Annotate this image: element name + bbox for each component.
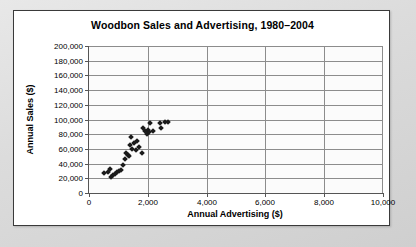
y-axis-tick bbox=[85, 61, 89, 62]
gridline-vertical bbox=[324, 46, 325, 193]
x-axis-tick-label: 10,000 bbox=[371, 198, 395, 207]
x-axis-tick bbox=[148, 193, 149, 197]
x-axis-tick bbox=[89, 193, 90, 197]
gridline-horizontal bbox=[89, 105, 383, 106]
gridline-horizontal bbox=[89, 75, 383, 76]
plot-canvas bbox=[89, 46, 383, 193]
x-axis-tick bbox=[383, 193, 384, 197]
y-axis-tick bbox=[85, 46, 89, 47]
x-axis-tick bbox=[265, 193, 266, 197]
x-axis-title: Annual Advertising ($) bbox=[88, 209, 382, 219]
y-axis-title: Annual Sales ($) bbox=[25, 46, 37, 193]
scatter-point bbox=[139, 150, 145, 156]
y-axis-tick bbox=[85, 149, 89, 150]
y-axis-tick bbox=[85, 120, 89, 121]
x-axis-tick-label: 6,000 bbox=[255, 198, 275, 207]
y-axis-tick-label: 160,000 bbox=[54, 71, 83, 80]
y-axis-tick bbox=[85, 90, 89, 91]
y-axis-tick-label: 60,000 bbox=[59, 145, 83, 154]
y-axis-tick bbox=[85, 75, 89, 76]
gridline-vertical bbox=[207, 46, 208, 193]
x-axis-tick bbox=[324, 193, 325, 197]
gridline-horizontal bbox=[89, 134, 383, 135]
x-axis-tick-label: 0 bbox=[87, 198, 91, 207]
gridline-horizontal bbox=[89, 61, 383, 62]
x-axis-tick-label: 4,000 bbox=[197, 198, 217, 207]
gridline-horizontal bbox=[89, 120, 383, 121]
plot-area: 020,00040,00060,00080,000100,000120,0001… bbox=[88, 46, 383, 194]
y-axis-tick-label: 80,000 bbox=[59, 130, 83, 139]
scatter-point bbox=[126, 153, 132, 159]
y-axis-tick bbox=[85, 164, 89, 165]
x-axis-tick-label: 2,000 bbox=[138, 198, 158, 207]
x-axis-tick-label: 8,000 bbox=[314, 198, 334, 207]
gridline-vertical bbox=[265, 46, 266, 193]
y-axis-tick bbox=[85, 178, 89, 179]
chart-title: Woodbon Sales and Advertising, 1980–2004 bbox=[14, 19, 391, 31]
scatter-point bbox=[148, 120, 154, 126]
y-axis-tick bbox=[85, 105, 89, 106]
scatter-point bbox=[158, 125, 164, 131]
gridline-horizontal bbox=[89, 164, 383, 165]
x-axis-tick bbox=[207, 193, 208, 197]
y-axis-tick-label: 180,000 bbox=[54, 57, 83, 66]
chart-card: Woodbon Sales and Advertising, 1980–2004… bbox=[13, 10, 390, 226]
y-axis-tick bbox=[85, 134, 89, 135]
y-axis-tick-label: 120,000 bbox=[54, 101, 83, 110]
scatter-point bbox=[134, 138, 140, 144]
gridline-horizontal bbox=[89, 46, 383, 47]
y-axis-tick-label: 0 bbox=[79, 189, 83, 198]
y-axis-tick-label: 100,000 bbox=[54, 116, 83, 125]
scatter-point bbox=[150, 128, 156, 134]
y-axis-tick-label: 40,000 bbox=[59, 160, 83, 169]
y-axis-tick-label: 140,000 bbox=[54, 86, 83, 95]
y-axis-tick-label: 20,000 bbox=[59, 174, 83, 183]
y-axis-tick-label: 200,000 bbox=[54, 42, 83, 51]
gridline-horizontal bbox=[89, 90, 383, 91]
gridline-horizontal bbox=[89, 178, 383, 179]
